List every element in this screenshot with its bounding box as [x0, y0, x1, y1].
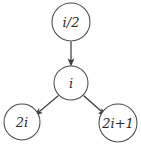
node-right-child-label: 2i+1	[101, 116, 134, 131]
node-right-child[interactable]: 2i+1	[99, 104, 137, 142]
node-self-label: i	[69, 76, 73, 91]
heap-index-diagram: i/2 i 2i 2i+1	[0, 0, 141, 146]
node-parent-label: i/2	[63, 15, 80, 30]
node-parent[interactable]: i/2	[52, 3, 90, 41]
edge-self-to-left-child-line	[40, 96, 59, 112]
edge-self-to-left-child	[35, 96, 59, 116]
node-left-child[interactable]: 2i	[4, 104, 40, 140]
node-self[interactable]: i	[54, 66, 88, 100]
edge-parent-to-self	[68, 42, 75, 67]
edge-self-to-right-child-line	[84, 96, 102, 112]
diagram-canvas: i/2 i 2i 2i+1	[0, 0, 141, 146]
node-left-child-label: 2i	[15, 115, 28, 130]
